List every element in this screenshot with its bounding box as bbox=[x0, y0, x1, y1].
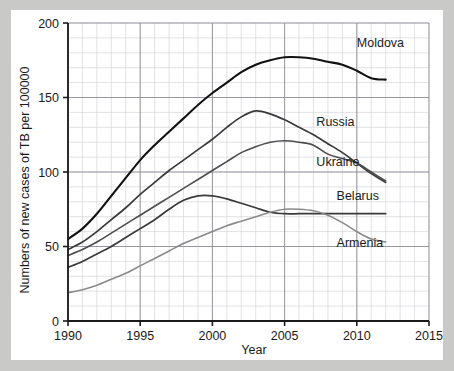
x-axis-title: Year bbox=[241, 343, 266, 357]
series-label-russia: Russia bbox=[316, 115, 354, 129]
x-tick-label: 2010 bbox=[343, 329, 371, 343]
series-label-belarus: Belarus bbox=[337, 189, 379, 203]
tb-incidence-line-chart: 050100150200199019952000200520102015 Mol… bbox=[11, 10, 443, 360]
x-tick-label: 2000 bbox=[198, 329, 226, 343]
x-tick-label: 2005 bbox=[271, 329, 299, 343]
series-label-armenia: Armenia bbox=[337, 236, 384, 250]
x-tick-label: 2015 bbox=[415, 329, 443, 343]
series-label-moldova: Moldova bbox=[357, 36, 404, 50]
y-tick-label: 50 bbox=[45, 240, 59, 254]
x-tick-label: 1990 bbox=[54, 329, 82, 343]
y-tick-label: 100 bbox=[38, 166, 59, 180]
y-tick-label: 200 bbox=[38, 17, 59, 31]
x-tick-label: 1995 bbox=[126, 329, 154, 343]
y-tick-label: 150 bbox=[38, 91, 59, 105]
y-tick-label: 0 bbox=[52, 315, 59, 329]
y-axis-title: Numbers of new cases of TB per 100000 bbox=[18, 66, 32, 293]
series-label-ukraine: Ukraine bbox=[316, 155, 359, 169]
figure-card: 050100150200199019952000200520102015 Mol… bbox=[11, 10, 443, 360]
